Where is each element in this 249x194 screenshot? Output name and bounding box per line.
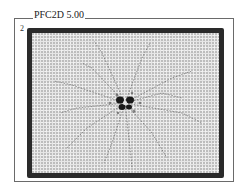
figure-title: PFC2D 5.00 bbox=[33, 10, 85, 20]
panel-index: 2 bbox=[20, 25, 24, 33]
particle-assembly bbox=[27, 28, 224, 178]
crack-pattern bbox=[32, 33, 219, 173]
